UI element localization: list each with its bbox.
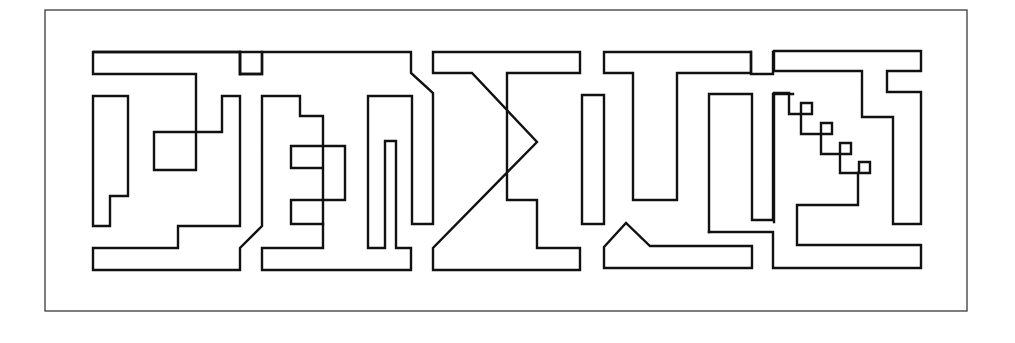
glyph4-u (751, 52, 773, 74)
glyph1-left-column (93, 96, 128, 226)
maze-lines (93, 51, 921, 270)
glyph4-top (604, 52, 751, 200)
glyph5-stair (774, 93, 870, 222)
maze-diagram (0, 0, 1015, 343)
glyph3-right-column (582, 95, 604, 224)
glyph1-top-bar-outline (93, 52, 345, 270)
glyph4-bottom (604, 223, 752, 268)
glyph5-lower-path (709, 173, 921, 268)
glyph4-inner-u (709, 94, 793, 232)
glyph1-top-bar (93, 52, 262, 74)
glyph3-sigma (433, 52, 580, 270)
glyph5-top (774, 51, 921, 224)
glyph1-notch (240, 52, 433, 270)
